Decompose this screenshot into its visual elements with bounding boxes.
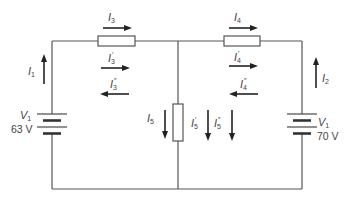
label-i4: I4	[234, 12, 241, 24]
arrow-i5-prime	[205, 110, 211, 141]
label-i4-prime: I4′	[234, 50, 239, 64]
arrow-i1	[41, 54, 47, 84]
label-i1: I1	[28, 66, 35, 78]
label-source-left-name: V1	[20, 110, 31, 122]
label-source-right-value: 70 V	[317, 131, 339, 142]
label-i4-double-prime: I4″	[240, 77, 246, 91]
label-i5-double-prime: I5″	[214, 116, 220, 130]
label-i3: I3	[108, 12, 115, 24]
label-source-left-value: 63 V	[11, 124, 33, 135]
arrow-i5-double-prime	[229, 110, 235, 141]
label-i2: I2	[322, 73, 329, 85]
resistor-r3	[98, 36, 135, 46]
arrow-i3-prime	[101, 65, 130, 71]
arrow-i2	[313, 57, 319, 88]
label-source-right-name: V1	[318, 117, 329, 129]
arrow-i4-double-prime	[229, 91, 258, 97]
battery-right	[287, 114, 317, 134]
arrow-i5	[162, 110, 168, 139]
arrow-i4	[229, 25, 258, 31]
label-i5-prime: I5′	[191, 116, 196, 130]
resistor-r4	[224, 36, 260, 46]
battery-left	[37, 114, 67, 134]
circuit-diagram	[0, 0, 348, 202]
resistor-r5	[173, 104, 183, 141]
label-i3-prime: I3′	[108, 51, 113, 65]
label-i5: I5	[147, 113, 154, 125]
arrow-i3	[103, 25, 132, 31]
label-i3-double-prime: I3″	[110, 77, 116, 91]
arrow-i3-double-prime	[100, 91, 129, 97]
